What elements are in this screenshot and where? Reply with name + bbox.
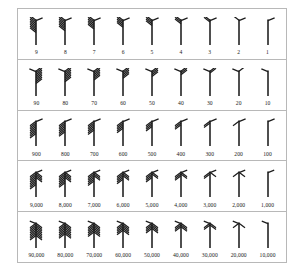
numeral-label: 5 — [138, 49, 167, 56]
numeral-glyph-hundreds-700 — [80, 111, 109, 149]
numeral-label: 20 — [224, 100, 253, 107]
numeral-glyph-tens-10 — [253, 60, 282, 98]
numeral-row-hundreds: 900800700600500400300200100 — [18, 111, 286, 162]
numeral-label: 200 — [224, 151, 253, 158]
label-strip: 908070605040302010 — [18, 98, 286, 110]
numeral-glyph-units-3 — [195, 9, 224, 47]
glyph-strip — [18, 212, 286, 250]
numeral-glyph-ten-thousands-10000 — [253, 212, 282, 250]
numeral-chart-table: 9876543219080706050403020109008007006005… — [17, 8, 287, 263]
numeral-label: 600 — [109, 151, 138, 158]
glyph-strip — [18, 9, 286, 47]
numeral-label: 9 — [22, 49, 51, 56]
numeral-glyph-hundreds-900 — [22, 111, 51, 149]
numeral-label: 80 — [51, 100, 80, 107]
numeral-glyph-ten-thousands-80000 — [51, 212, 80, 250]
numeral-label: 20,000 — [224, 252, 253, 259]
numeral-label: 900 — [22, 151, 51, 158]
numeral-label: 50,000 — [138, 252, 167, 259]
numeral-label: 9,000 — [22, 202, 51, 209]
numeral-label: 1 — [253, 49, 282, 56]
numeral-label: 60 — [109, 100, 138, 107]
numeral-glyph-hundreds-200 — [224, 111, 253, 149]
numeral-glyph-tens-60 — [109, 60, 138, 98]
numeral-label: 4 — [166, 49, 195, 56]
numeral-glyph-units-8 — [51, 9, 80, 47]
numeral-glyph-thousands-3000 — [195, 161, 224, 199]
numeral-glyph-hundreds-400 — [166, 111, 195, 149]
numeral-label: 1,000 — [253, 202, 282, 209]
numeral-label: 700 — [80, 151, 109, 158]
numeral-label: 90 — [22, 100, 51, 107]
glyph-strip — [18, 161, 286, 199]
numeral-row-thousands: 9,0008,0007,0006,0005,0004,0003,0002,000… — [18, 161, 286, 212]
numeral-label: 400 — [166, 151, 195, 158]
numeral-glyph-ten-thousands-40000 — [166, 212, 195, 250]
numeral-label: 2 — [224, 49, 253, 56]
numeral-glyph-units-6 — [109, 9, 138, 47]
numeral-glyph-ten-thousands-50000 — [138, 212, 167, 250]
numeral-label: 90,000 — [22, 252, 51, 259]
numeral-label: 70,000 — [80, 252, 109, 259]
numeral-glyph-thousands-7000 — [80, 161, 109, 199]
numeral-label: 50 — [138, 100, 167, 107]
numeral-glyph-hundreds-100 — [253, 111, 282, 149]
numeral-glyph-hundreds-300 — [195, 111, 224, 149]
numeral-glyph-tens-80 — [51, 60, 80, 98]
numeral-row-tens: 908070605040302010 — [18, 60, 286, 111]
numeral-glyph-tens-70 — [80, 60, 109, 98]
glyph-strip — [18, 111, 286, 149]
numeral-label: 80,000 — [51, 252, 80, 259]
label-strip: 9,0008,0007,0006,0005,0004,0003,0002,000… — [18, 199, 286, 211]
numeral-glyph-units-5 — [138, 9, 167, 47]
numeral-glyph-thousands-2000 — [224, 161, 253, 199]
numeral-glyph-thousands-1000 — [253, 161, 282, 199]
numeral-glyph-tens-20 — [224, 60, 253, 98]
numeral-label: 100 — [253, 151, 282, 158]
numeral-label: 8 — [51, 49, 80, 56]
numeral-glyph-thousands-6000 — [109, 161, 138, 199]
numeral-glyph-tens-50 — [138, 60, 167, 98]
numeral-glyph-tens-40 — [166, 60, 195, 98]
numeral-label: 7 — [80, 49, 109, 56]
numeral-glyph-ten-thousands-20000 — [224, 212, 253, 250]
numeral-glyph-hundreds-800 — [51, 111, 80, 149]
numeral-glyph-units-1 — [253, 9, 282, 47]
numeral-glyph-hundreds-500 — [138, 111, 167, 149]
numeral-glyph-thousands-9000 — [22, 161, 51, 199]
numeral-label: 40,000 — [166, 252, 195, 259]
numeral-label: 4,000 — [166, 202, 195, 209]
numeral-label: 6,000 — [109, 202, 138, 209]
numeral-glyph-tens-30 — [195, 60, 224, 98]
numeral-label: 8,000 — [51, 202, 80, 209]
numeral-label: 30 — [195, 100, 224, 107]
numeral-glyph-ten-thousands-60000 — [109, 212, 138, 250]
numeral-glyph-ten-thousands-70000 — [80, 212, 109, 250]
numeral-row-units: 987654321 — [18, 9, 286, 60]
label-strip: 90,00080,00070,00060,00050,00040,00030,0… — [18, 250, 286, 262]
numeral-label: 10 — [253, 100, 282, 107]
numeral-label: 70 — [80, 100, 109, 107]
numeral-glyph-ten-thousands-30000 — [195, 212, 224, 250]
numeral-label: 500 — [138, 151, 167, 158]
numeral-label: 7,000 — [80, 202, 109, 209]
numeral-label: 3 — [195, 49, 224, 56]
numeral-glyph-tens-90 — [22, 60, 51, 98]
numeral-label: 2,000 — [224, 202, 253, 209]
numeral-label: 6 — [109, 49, 138, 56]
numeral-label: 40 — [166, 100, 195, 107]
numeral-label: 5,000 — [138, 202, 167, 209]
numeral-row-ten-thousands: 90,00080,00070,00060,00050,00040,00030,0… — [18, 212, 286, 262]
numeral-label: 300 — [195, 151, 224, 158]
numeral-label: 30,000 — [195, 252, 224, 259]
numeral-label: 10,000 — [253, 252, 282, 259]
label-strip: 900800700600500400300200100 — [18, 148, 286, 160]
numeral-label: 800 — [51, 151, 80, 158]
numeral-glyph-ten-thousands-90000 — [22, 212, 51, 250]
numeral-glyph-units-2 — [224, 9, 253, 47]
numeral-glyph-hundreds-600 — [109, 111, 138, 149]
numeral-label: 60,000 — [109, 252, 138, 259]
numeral-glyph-thousands-4000 — [166, 161, 195, 199]
label-strip: 987654321 — [18, 47, 286, 59]
numeral-label: 3,000 — [195, 202, 224, 209]
